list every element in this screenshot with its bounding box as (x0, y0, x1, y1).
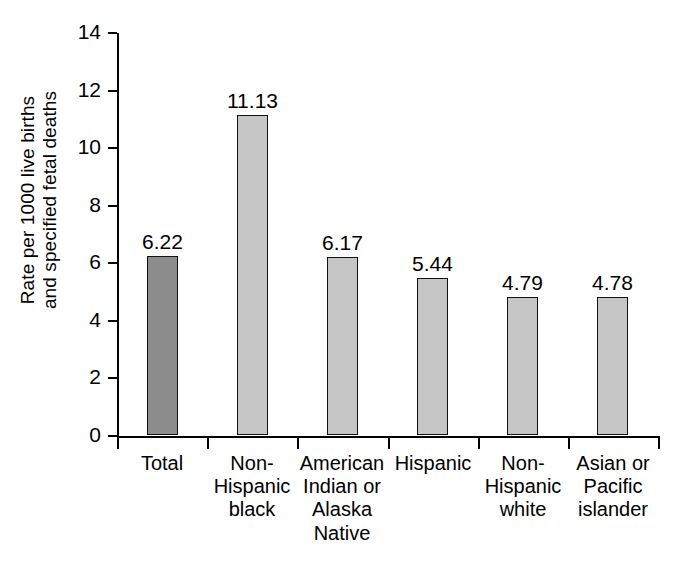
plot-area: 02468101214 6.2211.136.175.444.794.78 (117, 33, 658, 437)
y-axis-tick: 10 (108, 147, 117, 149)
bar-value-label: 6.22 (142, 231, 183, 252)
y-axis-tick: 12 (108, 90, 117, 92)
x-axis-tick (658, 436, 660, 449)
y-axis-tick: 0 (108, 435, 117, 437)
y-axis-tick-label: 8 (89, 194, 101, 215)
bar: 4.78 (597, 297, 628, 435)
bar-value-label: 4.78 (592, 272, 633, 293)
bar-value-label: 4.79 (502, 272, 543, 293)
x-axis-category-label-line: Non- (478, 452, 568, 475)
bar-value-label: 11.13 (227, 90, 278, 111)
y-axis-tick-label: 10 (78, 136, 101, 157)
bar-value-label: 5.44 (412, 253, 453, 274)
x-axis-category-label-line: Asian or (568, 452, 658, 475)
x-axis-tick (478, 436, 480, 449)
bar: 5.44 (417, 278, 448, 435)
y-axis-tick: 2 (108, 377, 117, 379)
x-axis-category-label-line: American (297, 452, 387, 475)
y-axis-title-line-1: Rate per 1000 live births (17, 96, 39, 304)
y-axis-tick-label: 0 (89, 424, 101, 445)
x-axis-category-label-line: Indian or (297, 475, 387, 498)
x-axis-tick (117, 436, 119, 449)
y-axis-tick: 14 (108, 32, 117, 34)
x-axis-category-label-line: Hispanic (388, 452, 478, 475)
x-axis-category-label-line: Non- (207, 452, 297, 475)
x-axis-category-label-line: Pacific (568, 475, 658, 498)
x-axis-category-label-line: black (207, 498, 297, 521)
bar: 6.17 (327, 257, 358, 435)
bar-value-label: 6.17 (322, 232, 363, 253)
bar: 4.79 (507, 297, 538, 435)
x-axis-category-label: Non-Hispanicwhite (478, 452, 568, 522)
x-axis-category-label-line: white (478, 498, 568, 521)
bar: 11.13 (237, 115, 268, 435)
x-axis-category-label: Total (117, 452, 207, 475)
y-axis-line (117, 33, 119, 438)
y-axis-tick-label: 12 (78, 79, 101, 100)
bar: 6.22 (147, 256, 178, 435)
y-axis-tick: 8 (108, 205, 117, 207)
x-axis-category-label-line: islander (568, 498, 658, 521)
y-axis-tick-label: 2 (89, 367, 101, 388)
y-axis-tick-label: 4 (89, 309, 101, 330)
x-axis-category-label: Asian orPacificislander (568, 452, 658, 522)
bar-chart: Rate per 1000 live births and specified … (0, 0, 673, 562)
x-axis-tick (568, 436, 570, 449)
x-axis-category-label-line: Alaska (297, 498, 387, 521)
x-axis-category-label-line: Native (297, 522, 387, 545)
x-axis-category-label: Non-Hispanicblack (207, 452, 297, 522)
x-axis-tick (207, 436, 209, 449)
y-axis-tick-label: 14 (78, 21, 101, 42)
x-axis-category-label-line: Hispanic (478, 475, 568, 498)
x-axis-tick (297, 436, 299, 449)
y-axis-tick-label: 6 (89, 252, 101, 273)
y-axis-title: Rate per 1000 live births and specified … (16, 0, 62, 410)
x-axis-category-label: Hispanic (388, 452, 478, 475)
x-axis-tick (388, 436, 390, 449)
x-axis-category-label-line: Hispanic (207, 475, 297, 498)
y-axis-title-line-2: and specified fetal deaths (39, 91, 61, 309)
x-axis-category-label-line: Total (117, 452, 207, 475)
x-axis-category-label: AmericanIndian orAlaskaNative (297, 452, 387, 545)
y-axis-tick: 4 (108, 320, 117, 322)
y-axis-tick: 6 (108, 262, 117, 264)
